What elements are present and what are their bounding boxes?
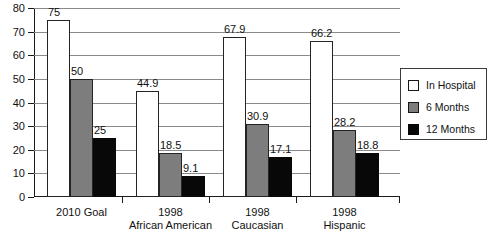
legend-item-label: In Hospital bbox=[426, 80, 476, 91]
bar-value-label: 28.2 bbox=[334, 117, 355, 128]
bar-value-label: 17.1 bbox=[270, 144, 291, 155]
bar-chart: 01020304050607080 75502544.918.59.167.93… bbox=[0, 0, 494, 241]
legend-item-label: 12 Months bbox=[426, 124, 475, 135]
bar-12-months bbox=[93, 138, 116, 197]
category-label-line: 1998 bbox=[288, 206, 401, 219]
legend: In Hospital 6 Months 12 Months bbox=[400, 68, 487, 140]
black-square-icon bbox=[408, 124, 419, 135]
x-axis-separator bbox=[122, 197, 123, 203]
bar-in-hospital bbox=[310, 41, 333, 197]
legend-item-12-months: 12 Months bbox=[408, 119, 486, 139]
y-axis-tick bbox=[28, 8, 34, 9]
y-axis-tick bbox=[28, 32, 34, 33]
white-square-icon bbox=[408, 80, 419, 91]
bar-12-months bbox=[182, 176, 205, 197]
bar-value-label: 18.5 bbox=[160, 140, 181, 151]
x-axis-separator bbox=[296, 197, 297, 203]
bar-value-label: 50 bbox=[71, 66, 83, 77]
category-label-line: Hispanic bbox=[288, 219, 401, 232]
bar-value-label: 25 bbox=[94, 125, 106, 136]
bar-value-label: 66.2 bbox=[311, 28, 332, 39]
bar-group: 44.918.59.1 bbox=[136, 8, 205, 197]
bar-6-months bbox=[70, 79, 93, 197]
bar-value-label: 67.9 bbox=[224, 24, 245, 35]
bar-in-hospital bbox=[223, 37, 246, 197]
bar-6-months bbox=[159, 153, 182, 197]
y-axis-tick-label: 10 bbox=[13, 168, 25, 179]
bar-12-months bbox=[356, 153, 379, 197]
y-axis-tick bbox=[28, 150, 34, 151]
y-axis-tick-label: 60 bbox=[13, 50, 25, 61]
bar-group: 67.930.917.1 bbox=[223, 8, 292, 197]
bar-12-months bbox=[269, 157, 292, 197]
y-axis-tick-label: 40 bbox=[13, 97, 25, 108]
y-axis-tick-label: 30 bbox=[13, 121, 25, 132]
bar-value-label: 9.1 bbox=[183, 163, 198, 174]
y-axis-tick-label: 0 bbox=[19, 192, 25, 203]
y-axis-tick-label: 80 bbox=[13, 3, 25, 14]
y-axis-tick bbox=[28, 173, 34, 174]
x-axis-separator bbox=[399, 197, 400, 203]
x-axis-category-label: 1998Hispanic bbox=[288, 206, 401, 232]
y-axis-tick bbox=[28, 197, 34, 198]
x-axis-separator bbox=[209, 197, 210, 203]
legend-item-in-hospital: In Hospital bbox=[408, 75, 486, 95]
y-axis-tick bbox=[28, 79, 34, 80]
bar-in-hospital bbox=[47, 20, 70, 197]
bar-in-hospital bbox=[136, 91, 159, 197]
y-axis-tick-label: 50 bbox=[13, 73, 25, 84]
bar-6-months bbox=[246, 124, 269, 197]
bar-value-label: 18.8 bbox=[357, 140, 378, 151]
gray-square-icon bbox=[408, 102, 419, 113]
legend-item-label: 6 Months bbox=[426, 102, 469, 113]
y-axis-tick-label: 70 bbox=[13, 26, 25, 37]
bar-value-label: 30.9 bbox=[247, 111, 268, 122]
bar-group: 66.228.218.8 bbox=[310, 8, 379, 197]
y-axis-tick bbox=[28, 126, 34, 127]
bar-value-label: 75 bbox=[48, 7, 60, 18]
y-axis-tick-label: 20 bbox=[13, 144, 25, 155]
bar-group: 755025 bbox=[47, 8, 116, 197]
y-axis-tick bbox=[28, 55, 34, 56]
y-axis-tick bbox=[28, 103, 34, 104]
bar-6-months bbox=[333, 130, 356, 197]
bar-value-label: 44.9 bbox=[137, 78, 158, 89]
plot-area: 01020304050607080 75502544.918.59.167.93… bbox=[34, 8, 400, 197]
legend-item-6-months: 6 Months bbox=[408, 97, 486, 117]
